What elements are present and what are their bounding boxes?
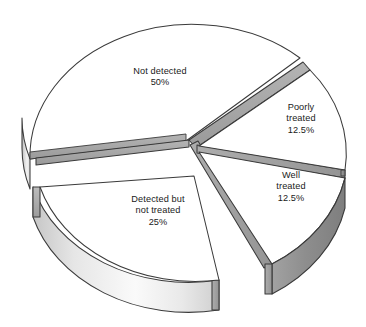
pie-slice-detected-not-treated[interactable] [33, 176, 219, 312]
slice-radial-wall-well-treated-right [265, 264, 272, 294]
slice-side-wall-poorly-treated [341, 170, 345, 176]
pie-chart-figure: Not detected 50% Poorly treated 12.5% We… [0, 0, 366, 327]
slice-radial-wall-detected-left [33, 187, 40, 217]
slice-side-wall-not-detected [22, 118, 30, 189]
pie-chart-graphic [0, 0, 366, 327]
slice-radial-wall-detected-right [212, 280, 219, 310]
